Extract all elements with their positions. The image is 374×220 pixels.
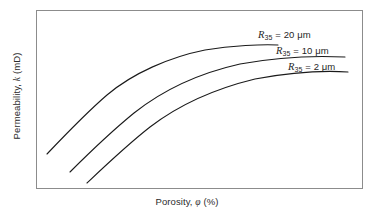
r-subscript: 35: [265, 34, 273, 41]
plot-frame: [37, 11, 363, 189]
r-value-text: = 20 μm: [273, 29, 311, 40]
curve-label-r35-2: R35 = 2 μm: [288, 61, 335, 73]
curve-label-r35-20: R35 = 20 μm: [258, 29, 311, 41]
k-symbol: k: [12, 77, 22, 81]
r-value-text: = 2 μm: [303, 61, 336, 72]
chart-figure: R35 = 20 μm R35 = 10 μm R35 = 2 μm Poros…: [0, 0, 374, 220]
r-subscript: 35: [283, 50, 291, 57]
y-axis-label: Permeability, k (mD): [11, 7, 25, 185]
r-subscript: 35: [295, 66, 303, 73]
y-axis-label-prefix: Permeability,: [11, 81, 22, 139]
x-axis-label: Porosity, φ (%): [0, 196, 374, 207]
curve-label-r35-10: R35 = 10 μm: [276, 45, 329, 57]
plot-canvas: [0, 0, 374, 220]
x-axis-label-prefix: Porosity,: [155, 196, 195, 207]
r-value-text: = 10 μm: [291, 45, 329, 56]
x-axis-label-suffix: (%): [201, 196, 219, 207]
y-axis-label-suffix: (mD): [11, 53, 22, 77]
